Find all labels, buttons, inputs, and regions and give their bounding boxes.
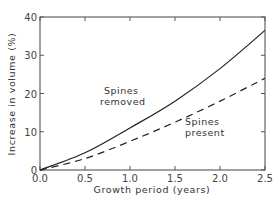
x-axis-ticks: 0.00.51.01.52.02.5 — [32, 17, 273, 184]
plot-frame — [40, 17, 265, 170]
annotation-spines-removed-line1: Spines — [104, 85, 139, 96]
y-tick-label: 10 — [24, 127, 37, 138]
plot-border — [40, 17, 265, 170]
x-tick-label: 2.0 — [212, 173, 228, 184]
y-axis-label: Increase in volume (%) — [6, 33, 17, 156]
y-axis-ticks: 010203040 — [24, 12, 265, 176]
y-tick-label: 30 — [24, 50, 37, 61]
x-tick-label: 1.5 — [167, 173, 183, 184]
annotation-spines-present-line2: present — [185, 127, 225, 138]
y-tick-label: 20 — [24, 89, 37, 100]
annotation-spines-removed-line2: removed — [100, 96, 146, 107]
y-tick-label: 0 — [31, 165, 37, 176]
annotation-spines-present-line1: Spines — [185, 116, 220, 127]
x-tick-label: 1.0 — [122, 173, 138, 184]
series-line-spines-present — [40, 78, 265, 170]
x-axis-label: Growth period (years) — [94, 184, 211, 195]
x-tick-label: 0.5 — [77, 173, 93, 184]
series-line-spines-removed — [40, 30, 265, 170]
line-chart: 0.00.51.01.52.02.5 010203040 Spines remo… — [0, 0, 280, 209]
x-tick-label: 2.5 — [257, 173, 273, 184]
y-tick-label: 40 — [24, 12, 37, 23]
data-series — [40, 30, 265, 170]
